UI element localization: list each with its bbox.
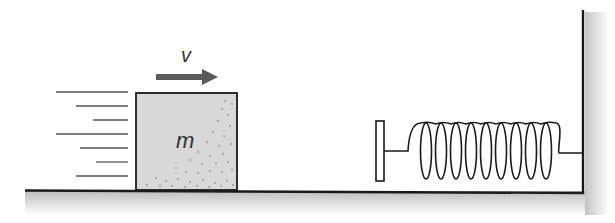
diagram-canvas [0, 0, 615, 223]
bumper-plate [376, 121, 384, 181]
velocity-arrow [156, 69, 218, 85]
motion-lines [56, 92, 128, 176]
ground-shading [25, 191, 587, 215]
spring [384, 122, 583, 179]
wall-shading [585, 12, 609, 215]
mass-label: m [176, 128, 194, 154]
ground-and-wall [25, 10, 583, 193]
velocity-label: v [181, 44, 191, 67]
